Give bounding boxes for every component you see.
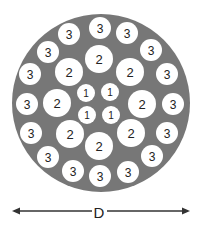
strand-layer-1: 1 (102, 106, 120, 124)
strand-layer-2: 2 (56, 120, 84, 148)
strand-layer-3: 3 (156, 63, 178, 85)
strand-label: 3 (170, 98, 177, 112)
arrow-right-icon (182, 208, 190, 215)
strand-layer-3: 3 (20, 122, 42, 144)
strand-layer-3: 3 (141, 145, 163, 167)
strand-label: 1 (83, 88, 89, 99)
strand-label: 2 (66, 127, 73, 142)
strand-label: 3 (164, 127, 171, 141)
strand-layer-3: 3 (116, 22, 138, 44)
strand-label: 3 (149, 150, 156, 164)
strand-label: 3 (24, 98, 31, 112)
strand-label: 3 (27, 68, 34, 82)
strand-label: 3 (45, 46, 52, 60)
strand-layer-3: 3 (117, 161, 139, 183)
strand-layer-1: 1 (101, 83, 119, 101)
diameter-dimension: D (12, 204, 190, 221)
strand-label: 2 (95, 52, 102, 67)
strand-layer-3: 3 (140, 39, 162, 61)
strand-layer-3: 3 (89, 165, 111, 187)
strand-label: 2 (138, 97, 145, 112)
strand-label: 2 (65, 65, 72, 80)
strand-label: 2 (53, 96, 60, 111)
strand-layer-1: 1 (77, 84, 95, 102)
arrow-left-icon (12, 208, 20, 215)
strand-layer-3: 3 (62, 160, 84, 182)
strand-layer-3: 3 (89, 17, 111, 39)
strand-layer-3: 3 (37, 146, 59, 168)
strand-layer-3: 3 (19, 63, 41, 85)
strand-layer-2: 2 (128, 90, 156, 118)
strand-layer-3: 3 (37, 41, 59, 63)
strand-layer-2: 2 (43, 89, 71, 117)
strand-label: 3 (66, 28, 73, 42)
diameter-label: D (94, 204, 105, 221)
strand-layer-3: 3 (58, 23, 80, 45)
strand-label: 3 (45, 151, 52, 165)
strand-layer-2: 2 (85, 45, 113, 73)
strand-layer-3: 3 (162, 93, 184, 115)
strand-label: 3 (70, 165, 77, 179)
strand-cross-section-diagram: 1111222222223333333333333333 D (0, 0, 200, 231)
strand-layer-1: 1 (78, 106, 96, 124)
strand-label: 2 (126, 65, 133, 80)
strand-layer-2: 2 (116, 58, 144, 86)
strand-label: 3 (124, 27, 131, 41)
strand-label: 3 (125, 166, 132, 180)
strand-label: 1 (107, 87, 113, 98)
strand-layer-3: 3 (16, 93, 38, 115)
strand-label: 2 (95, 139, 102, 154)
strand-label: 3 (164, 68, 171, 82)
strand-label: 2 (127, 126, 134, 141)
strand-label: 1 (108, 110, 114, 121)
strand-label: 1 (84, 110, 90, 121)
strand-label: 3 (28, 127, 35, 141)
strand-layer-2: 2 (85, 132, 113, 160)
strand-layer-2: 2 (55, 58, 83, 86)
strand-layer-2: 2 (117, 119, 145, 147)
strand-label: 3 (97, 170, 104, 184)
strand-label: 3 (148, 44, 155, 58)
strand-label: 3 (97, 22, 104, 36)
strand-layer-3: 3 (156, 122, 178, 144)
